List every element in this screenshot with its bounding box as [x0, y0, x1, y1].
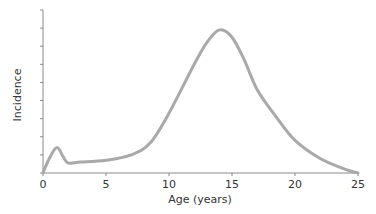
incidence-curve: [43, 30, 358, 173]
x-tick-label: 20: [288, 178, 302, 191]
x-tick-label: 10: [162, 178, 176, 191]
x-tick-label: 5: [103, 178, 110, 191]
x-axis-label: Age (years): [168, 193, 232, 206]
x-tick-label: 15: [225, 178, 239, 191]
x-tick-label: 0: [40, 178, 47, 191]
y-axis: [40, 10, 43, 173]
y-axis-label: Incidence: [11, 68, 24, 121]
x-axis: 0510152025: [40, 173, 366, 191]
x-tick-label: 25: [351, 178, 365, 191]
incidence-chart: 0510152025 Age (years) Incidence: [0, 0, 376, 214]
